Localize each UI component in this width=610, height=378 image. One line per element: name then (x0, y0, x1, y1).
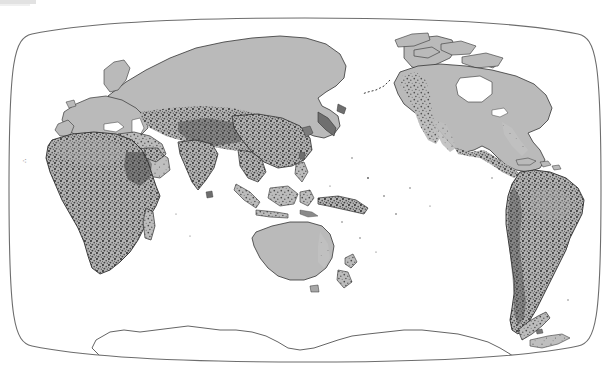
left-edge-tick-label: ∴ (21, 159, 29, 163)
top-left-artifact-strip-secondary (0, 4, 30, 6)
world-map-canvas[interactable] (0, 0, 610, 378)
world-map-figure: ∴ (0, 0, 610, 378)
